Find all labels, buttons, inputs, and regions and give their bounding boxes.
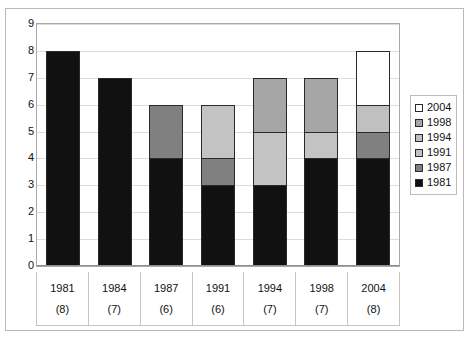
x-tick-label: 1991 xyxy=(206,282,230,294)
bar-segment-1987[interactable] xyxy=(149,105,183,159)
bar-segment-1981[interactable] xyxy=(201,185,235,266)
bar-segment-1998[interactable] xyxy=(304,78,338,132)
bar-segment-1991[interactable] xyxy=(253,132,287,186)
x-tick-label: 1987 xyxy=(154,282,178,294)
x-tick-label: 2004 xyxy=(361,282,385,294)
legend-label: 1987 xyxy=(427,162,451,173)
plot-area xyxy=(36,23,400,267)
stacked-bar[interactable] xyxy=(253,78,287,266)
bar-segment-1981[interactable] xyxy=(304,158,338,266)
y-tick-label: 2 xyxy=(10,206,34,217)
x-tick-count: (7) xyxy=(263,303,276,315)
y-tick-label: 6 xyxy=(10,99,34,110)
y-axis: 9876543210 xyxy=(10,18,34,272)
legend-label: 1981 xyxy=(427,177,451,188)
stacked-bar[interactable] xyxy=(149,105,183,266)
legend-swatch-icon xyxy=(415,164,423,172)
legend-label: 1994 xyxy=(427,132,451,143)
legend-item-1998[interactable]: 1998 xyxy=(415,115,451,130)
x-tick-count: (8) xyxy=(367,303,380,315)
legend-swatch-icon xyxy=(415,179,423,187)
legend-swatch-icon xyxy=(415,104,423,112)
x-tick-count: (7) xyxy=(315,303,328,315)
y-tick-label: 3 xyxy=(10,179,34,190)
legend-swatch-icon xyxy=(415,119,423,127)
legend-item-1991[interactable]: 1991 xyxy=(415,145,451,160)
bar-slot xyxy=(140,24,192,266)
x-axis-column: 1994(7) xyxy=(244,272,296,325)
chart-page: 9876543210 1981(8)1984(7)1987(6)1991(6)1… xyxy=(0,0,471,337)
bar-group xyxy=(37,24,399,266)
stacked-bar[interactable] xyxy=(304,78,338,266)
stacked-bar[interactable] xyxy=(201,105,235,266)
x-axis-line xyxy=(37,265,399,266)
x-tick-count: (6) xyxy=(211,303,224,315)
y-tick-label: 0 xyxy=(10,260,34,271)
y-tick-label: 9 xyxy=(10,18,34,29)
bar-slot xyxy=(37,24,89,266)
legend-swatch-icon xyxy=(415,134,423,142)
x-tick-count: (8) xyxy=(56,303,69,315)
x-tick-label: 1981 xyxy=(50,282,74,294)
bar-segment-1981[interactable] xyxy=(98,78,132,266)
y-tick-label: 4 xyxy=(10,152,34,163)
x-axis-label-table: 1981(8)1984(7)1987(6)1991(6)1994(7)1998(… xyxy=(36,272,400,326)
bar-segment-1981[interactable] xyxy=(46,51,80,266)
legend-item-1987[interactable]: 1987 xyxy=(415,160,451,175)
legend-item-1994[interactable]: 1994 xyxy=(415,130,451,145)
legend-label: 1991 xyxy=(427,147,451,158)
title-artifact xyxy=(196,0,208,7)
bar-segment-1981[interactable] xyxy=(253,185,287,266)
bar-segment-1991[interactable] xyxy=(201,105,235,159)
x-tick-count: (6) xyxy=(159,303,172,315)
stacked-bar[interactable] xyxy=(356,51,390,266)
x-tick-count: (7) xyxy=(108,303,121,315)
bar-segment-1987[interactable] xyxy=(201,158,235,185)
bar-slot xyxy=(89,24,141,266)
bar-slot xyxy=(347,24,399,266)
stacked-bar[interactable] xyxy=(98,78,132,266)
x-axis-column: 1998(7) xyxy=(296,272,348,325)
legend-label: 2004 xyxy=(427,102,451,113)
bar-slot xyxy=(244,24,296,266)
x-tick-label: 1994 xyxy=(258,282,282,294)
chart-legend: 200419981994199119871981 xyxy=(410,95,457,195)
legend-item-1981[interactable]: 1981 xyxy=(415,175,451,190)
bar-segment-2004[interactable] xyxy=(356,51,390,105)
bar-segment-1987[interactable] xyxy=(356,132,390,159)
bar-segment-1991[interactable] xyxy=(304,132,338,159)
y-tick-label: 8 xyxy=(10,45,34,56)
x-axis-column: 1984(7) xyxy=(89,272,141,325)
legend-swatch-icon xyxy=(415,149,423,157)
bar-slot xyxy=(192,24,244,266)
x-axis-column: 1981(8) xyxy=(37,272,89,325)
y-tick-label: 5 xyxy=(10,126,34,137)
y-tick-label: 7 xyxy=(10,72,34,83)
x-axis-column: 2004(8) xyxy=(348,272,399,325)
y-tick-label: 1 xyxy=(10,233,34,244)
stacked-bar[interactable] xyxy=(46,51,80,266)
legend-label: 1998 xyxy=(427,117,451,128)
x-tick-label: 1998 xyxy=(309,282,333,294)
x-axis-column: 1991(6) xyxy=(193,272,245,325)
legend-item-2004[interactable]: 2004 xyxy=(415,100,451,115)
bar-segment-1994[interactable] xyxy=(356,105,390,132)
bar-slot xyxy=(296,24,348,266)
bar-segment-1998[interactable] xyxy=(253,78,287,132)
x-tick-label: 1984 xyxy=(102,282,126,294)
bar-segment-1981[interactable] xyxy=(356,158,390,266)
x-axis-column: 1987(6) xyxy=(141,272,193,325)
bar-segment-1981[interactable] xyxy=(149,158,183,266)
